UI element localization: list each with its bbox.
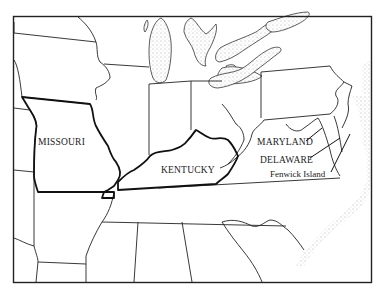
great-lakes [144, 12, 309, 88]
highlighted-states [22, 97, 238, 198]
map-svg [0, 0, 382, 296]
label-kentucky: KENTUCKY [161, 166, 215, 176]
label-fenwick-island: Fenwick Island [270, 170, 325, 179]
state-borders [14, 17, 352, 282]
label-maryland: MARYLAND [257, 138, 313, 148]
kentucky-outline [118, 130, 238, 190]
label-missouri: MISSOURI [38, 138, 85, 148]
missouri-outline [22, 97, 120, 198]
map: MISSOURI KENTUCKY MARYLAND DELAWARE Fenw… [0, 0, 382, 296]
label-delaware: DELAWARE [260, 156, 313, 166]
